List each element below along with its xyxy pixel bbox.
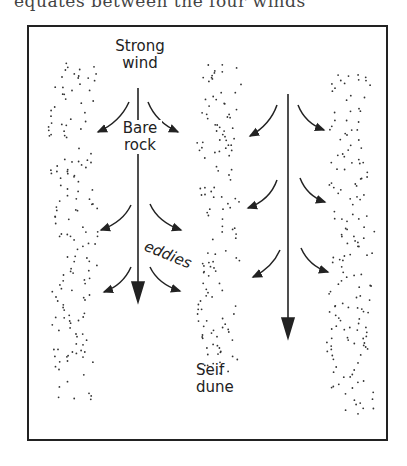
label-seif-dune: Seif dune xyxy=(196,362,234,396)
left-dune-stipple xyxy=(48,62,99,400)
right-dune-stipple xyxy=(326,74,375,415)
label-seif: Seif xyxy=(196,362,234,379)
label-bare: Bare xyxy=(118,120,162,137)
label-strong: Strong xyxy=(112,38,168,55)
middle-dune-stipple xyxy=(196,64,242,374)
label-rock: rock xyxy=(118,137,162,154)
diagram-canvas xyxy=(0,0,407,466)
label-strong-wind: Strong wind xyxy=(112,38,168,72)
label-dune: dune xyxy=(196,379,234,396)
wind-arrow-right xyxy=(282,94,294,338)
label-bare-rock: Bare rock xyxy=(118,120,162,154)
label-wind: wind xyxy=(112,55,168,72)
